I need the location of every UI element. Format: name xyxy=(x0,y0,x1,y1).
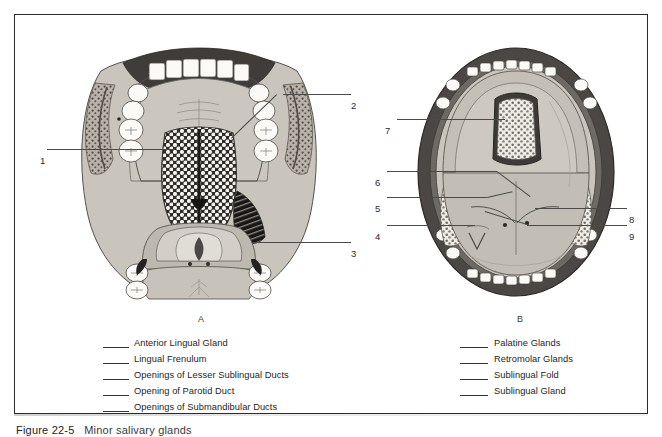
legend-item-a-4[interactable]: Opening of Parotid Duct xyxy=(103,383,289,399)
callout-6-number: 6 xyxy=(375,177,380,188)
callout-9-number: 9 xyxy=(629,231,634,242)
callout-8: 8 xyxy=(629,215,634,225)
callout-5-number: 5 xyxy=(375,203,380,214)
legend-item-b-2[interactable]: Retromolar Glands xyxy=(460,351,573,367)
legend-item-a-3[interactable]: Openings of Lesser Sublingual Ducts xyxy=(103,367,289,383)
leader-line-2-horizontal xyxy=(283,94,351,95)
leader-line-9 xyxy=(527,225,627,226)
callout-2: 2 xyxy=(351,101,356,111)
leader-line-8 xyxy=(535,208,627,209)
legend-item-label: Openings of Lesser Sublingual Ducts xyxy=(134,370,289,380)
callout-3: 3 xyxy=(351,249,356,259)
oral-cavity-drawing-b xyxy=(409,41,624,303)
answer-blank-line[interactable] xyxy=(460,395,488,396)
callout-4-number: 4 xyxy=(375,231,380,242)
leader-line-7 xyxy=(397,119,505,120)
callout-7-number: 7 xyxy=(385,125,390,136)
callout-2-number: 2 xyxy=(351,100,356,111)
legend-item-b-1[interactable]: Palatine Glands xyxy=(460,335,573,351)
callout-7: 7 xyxy=(385,126,390,136)
illustration-panel-b xyxy=(409,41,624,303)
legend-list-a: Anterior Lingual Gland Lingual Frenulum … xyxy=(103,335,289,415)
legend-item-b-4[interactable]: Sublingual Gland xyxy=(460,383,573,399)
answer-blank-line[interactable] xyxy=(103,379,129,380)
answer-blank-line[interactable] xyxy=(460,347,488,348)
callout-1-number: 1 xyxy=(40,155,45,166)
callout-5: 5 xyxy=(375,204,380,214)
answer-blank-line[interactable] xyxy=(103,363,129,364)
page-scan-edge xyxy=(14,414,648,416)
parotid-duct-opening xyxy=(117,117,121,121)
palatine-glands xyxy=(497,99,536,160)
legend-item-label: Anterior Lingual Gland xyxy=(134,338,228,348)
legend-item-label: Palatine Glands xyxy=(494,338,560,348)
oral-cavity-drawing-a xyxy=(61,31,336,306)
legend-item-label: Retromolar Glands xyxy=(494,354,573,364)
legend-item-a-2[interactable]: Lingual Frenulum xyxy=(103,351,289,367)
leader-line-3 xyxy=(253,242,351,243)
legend-item-b-3[interactable]: Sublingual Fold xyxy=(460,367,573,383)
figure-caption-text: Minor salivary glands xyxy=(84,424,192,436)
figure-border-box: 1 2 3 xyxy=(14,14,648,414)
leader-line-1 xyxy=(47,149,175,150)
leader-line-4 xyxy=(387,225,475,226)
callout-1: 1 xyxy=(40,156,45,166)
answer-blank-line[interactable] xyxy=(460,363,488,364)
submandibular-duct-opening-left xyxy=(188,262,192,266)
legend-list-b: Palatine Glands Retromolar Glands Sublin… xyxy=(460,335,573,399)
legend-item-label: Lingual Frenulum xyxy=(134,354,207,364)
legend-item-a-5[interactable]: Openings of Submandibular Ducts xyxy=(103,399,289,415)
callout-6: 6 xyxy=(375,178,380,188)
panel-letter-a: A xyxy=(198,314,204,324)
figure-caption-number: Figure 22-5 xyxy=(16,424,74,436)
answer-blank-line[interactable] xyxy=(103,347,129,348)
panel-letter-b: B xyxy=(517,314,523,324)
legend-item-label: Sublingual Gland xyxy=(494,386,566,396)
answer-blank-line[interactable] xyxy=(460,379,488,380)
answer-blank-line[interactable] xyxy=(103,411,129,412)
figure-caption: Figure 22-5 Minor salivary glands xyxy=(16,424,416,437)
callout-4: 4 xyxy=(375,232,380,242)
figure-page: 1 2 3 xyxy=(0,0,662,437)
submandibular-duct-opening-right xyxy=(206,262,210,266)
legend-item-a-1[interactable]: Anterior Lingual Gland xyxy=(103,335,289,351)
leader-line-5 xyxy=(387,197,487,198)
callout-8-number: 8 xyxy=(629,214,634,225)
illustration-panel-a xyxy=(61,31,336,306)
legend-item-label: Sublingual Fold xyxy=(494,370,559,380)
legend-item-label: Opening of Parotid Duct xyxy=(134,386,234,396)
callout-9: 9 xyxy=(629,232,634,242)
legend-item-label: Openings of Submandibular Ducts xyxy=(134,402,277,412)
callout-3-number: 3 xyxy=(351,248,356,259)
answer-blank-line[interactable] xyxy=(103,395,129,396)
leader-line-6 xyxy=(387,171,497,172)
